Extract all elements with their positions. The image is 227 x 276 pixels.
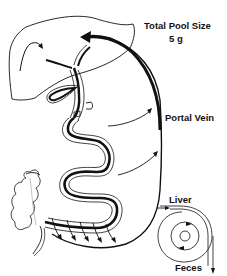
rectum-inner [34, 228, 45, 256]
feces-label: Feces [175, 263, 202, 273]
bile-duct-left [46, 60, 72, 68]
total-pool-size-label: Total Pool Size [144, 21, 211, 31]
small-intestine [45, 118, 122, 233]
enterohepatic-circulation-diagram [0, 0, 227, 276]
bile-duct-right [78, 47, 90, 66]
liver-internal-arrow [20, 43, 41, 71]
bile-duct-right-outer [74, 45, 87, 65]
portal-vein-arrowhead [80, 31, 91, 43]
portal-vein-label: Portal Vein [165, 113, 214, 123]
colon [11, 170, 40, 230]
mesenteric-arrow-lower [118, 154, 156, 175]
pool-size-value: 5 g [169, 34, 183, 44]
mesenteric-arrow-upper [108, 111, 150, 126]
colon-top [26, 173, 40, 175]
pancreatic-stub [86, 102, 93, 109]
common-bile-duct-outer [70, 70, 75, 118]
liver-label: Liver [169, 195, 192, 205]
portal-vein-return-path-thick [88, 37, 160, 130]
